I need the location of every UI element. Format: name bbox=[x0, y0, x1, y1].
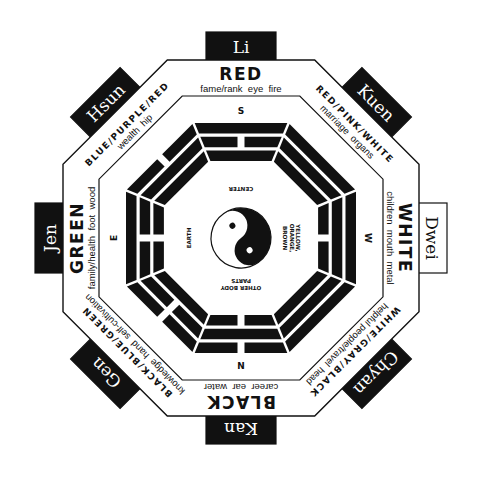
solid-line bbox=[126, 192, 137, 285]
earth-colors-label: YELLOW,ORANGE,BROWN bbox=[282, 223, 301, 252]
color-label: GREEN bbox=[67, 202, 87, 274]
direction-e: E bbox=[109, 235, 119, 241]
solid-line bbox=[346, 192, 357, 285]
svg-text:YELLOW,: YELLOW, bbox=[295, 223, 301, 251]
name-box-li: Li bbox=[206, 32, 276, 62]
trigram-name-label: Dwei bbox=[422, 216, 442, 260]
trigram-name-label: Kan bbox=[224, 419, 258, 439]
name-box-jen: Jen bbox=[35, 203, 65, 273]
solid-line bbox=[206, 150, 276, 161]
solid-line bbox=[332, 197, 343, 278]
solid-line bbox=[200, 329, 281, 340]
associations-label: children mouth metal bbox=[385, 191, 396, 284]
color-label: RED bbox=[219, 64, 262, 84]
color-label: WHITE bbox=[395, 203, 415, 273]
svg-text:ORANGE,: ORANGE, bbox=[289, 224, 295, 253]
earth-label: EARTH bbox=[186, 227, 192, 248]
trigram-name-label: Li bbox=[233, 37, 250, 57]
direction-n: N bbox=[237, 360, 245, 370]
center-label: CENTER bbox=[228, 186, 253, 192]
svg-text:BROWN: BROWN bbox=[282, 226, 288, 250]
name-box-kan: Kan bbox=[206, 414, 276, 444]
solid-line bbox=[195, 123, 288, 134]
associations-label: fame/rank eye fire bbox=[200, 83, 281, 94]
name-box-dwei: Dwei bbox=[417, 203, 447, 273]
svg-text:OTHER BODY: OTHER BODY bbox=[220, 285, 262, 291]
bagua-diagram: LiKuenDweiChyanKanGenJenHsun REDfame/ran… bbox=[0, 0, 481, 477]
color-label: BLACK bbox=[206, 392, 276, 412]
associations-label: career ear water bbox=[204, 382, 278, 393]
bagua-canvas: LiKuenDweiChyanKanGenJenHsun REDfame/ran… bbox=[0, 0, 481, 477]
svg-text:PARTS: PARTS bbox=[231, 278, 251, 284]
trigram-name-label: Jen bbox=[40, 224, 60, 254]
direction-s: S bbox=[238, 106, 244, 116]
associations-label: family/health foot wood bbox=[86, 187, 97, 289]
direction-w: W bbox=[363, 233, 373, 243]
